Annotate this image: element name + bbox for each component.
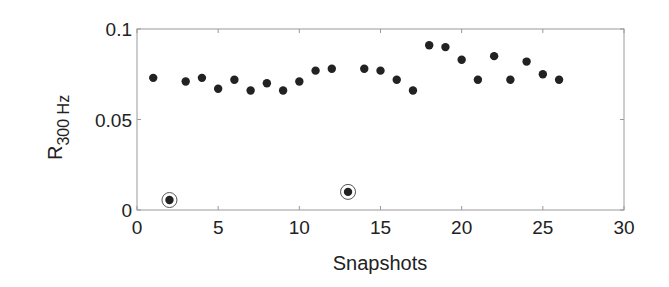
- x-tick-label: 15: [370, 217, 391, 238]
- data-point: [474, 75, 482, 83]
- data-point: [393, 75, 401, 83]
- data-point: [376, 66, 384, 74]
- data-point: [198, 74, 206, 82]
- data-point: [246, 86, 254, 94]
- y-axis-label: R300 Hz: [44, 95, 72, 160]
- x-tick-label: 5: [213, 217, 224, 238]
- x-tick-label: 10: [289, 217, 310, 238]
- x-tick-label: 30: [613, 217, 634, 238]
- data-point: [295, 77, 303, 85]
- data-point: [182, 77, 190, 85]
- y-tick-label: 0.05: [95, 110, 132, 131]
- data-point: [311, 66, 319, 74]
- data-point: [214, 85, 222, 93]
- x-tick-label: 20: [451, 217, 472, 238]
- data-point: [328, 65, 336, 73]
- y-tick-label: 0: [121, 200, 132, 221]
- data-point: [279, 86, 287, 94]
- x-tick-label: 25: [532, 217, 553, 238]
- y-axis-label-main: R: [44, 146, 66, 160]
- data-point: [149, 74, 157, 82]
- data-point: [506, 75, 514, 83]
- data-point: [522, 57, 530, 65]
- data-point: [165, 196, 173, 204]
- y-axis-label-subscript: 300 Hz: [55, 95, 72, 146]
- x-axis-label: Snapshots: [333, 252, 428, 274]
- data-point: [263, 79, 271, 87]
- data-point: [425, 41, 433, 49]
- data-point: [539, 70, 547, 78]
- plot-area: [137, 29, 624, 210]
- x-tick-label: 0: [132, 217, 143, 238]
- data-point: [360, 65, 368, 73]
- data-point: [555, 75, 563, 83]
- data-point: [344, 188, 352, 196]
- data-point: [441, 43, 449, 51]
- data-point: [457, 56, 465, 64]
- axes-frame: [137, 29, 624, 210]
- y-tick-label: 0.1: [106, 19, 132, 40]
- data-point: [230, 75, 238, 83]
- data-point: [490, 52, 498, 60]
- data-point: [409, 86, 417, 94]
- scatter-chart: 05101520253000.050.1 Snapshots R300 Hz: [0, 0, 669, 287]
